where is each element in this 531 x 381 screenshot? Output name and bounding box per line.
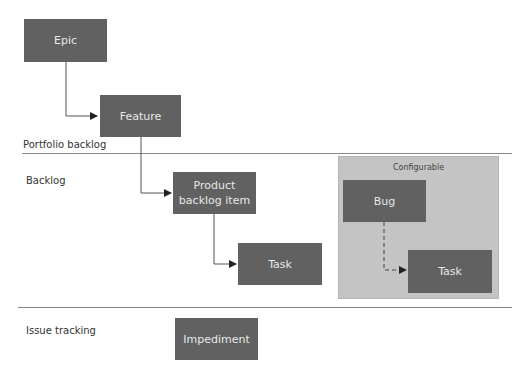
- node-task: Task: [238, 243, 322, 285]
- node-product-backlog-item: Product backlog item: [173, 172, 256, 214]
- node-feature: Feature: [100, 95, 181, 137]
- node-epic: Epic: [24, 19, 107, 62]
- node-bug-task: Task: [408, 250, 492, 293]
- node-bug: Bug: [343, 180, 426, 222]
- node-impediment: Impediment: [175, 318, 258, 360]
